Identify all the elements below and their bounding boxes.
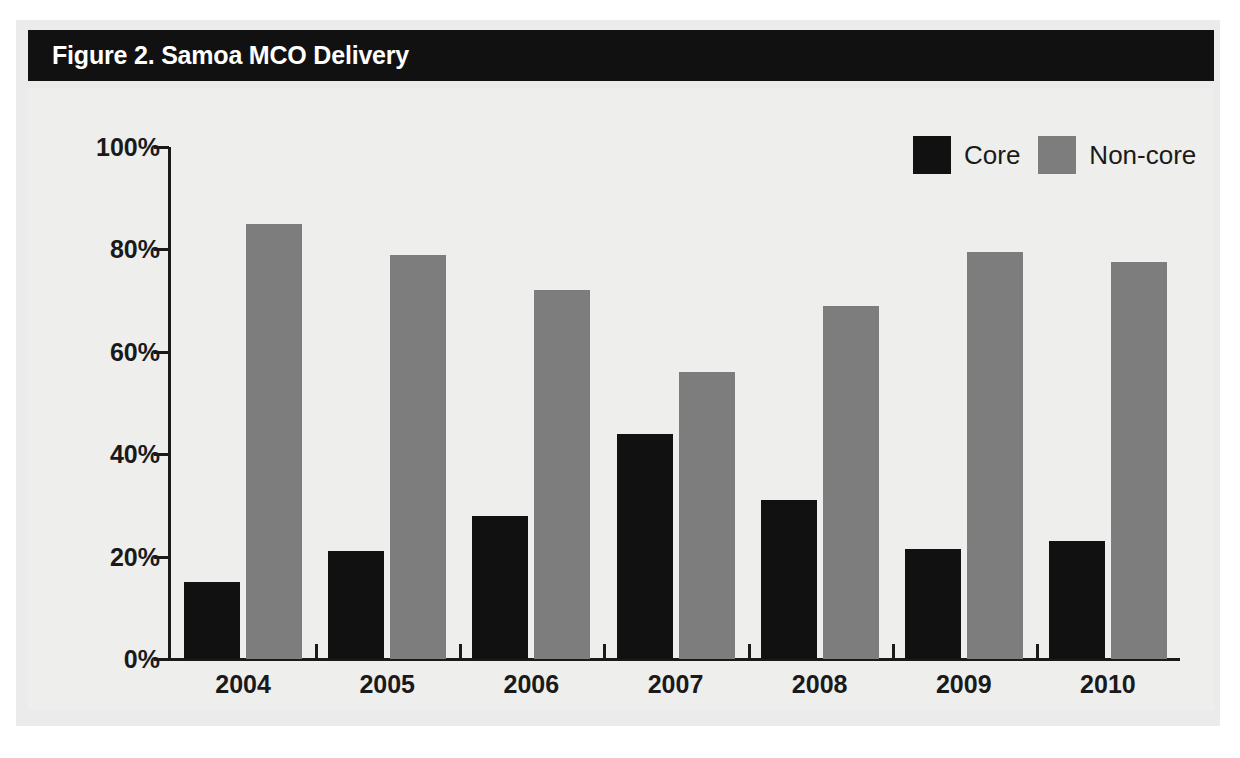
- legend-label-non-core: Non-core: [1089, 140, 1196, 171]
- bar-non-core-2006: [534, 290, 590, 659]
- bar-group-2010: [1049, 147, 1167, 659]
- x-axis-tick-mark: [1036, 644, 1039, 661]
- bar-core-2008: [761, 500, 817, 659]
- chart-card: 0%20%40%60%80%100% 200420052006200720082…: [28, 88, 1214, 710]
- bar-core-2010: [1049, 541, 1105, 659]
- bar-non-core-2007: [679, 372, 735, 659]
- bar-group-2006: [472, 147, 590, 659]
- x-axis-tick-mark: [748, 644, 751, 661]
- x-axis-tick-label: 2007: [648, 670, 704, 699]
- legend-label-core: Core: [964, 140, 1020, 171]
- x-axis-labels: 2004200520062007200820092010: [171, 666, 1180, 710]
- figure-title-bar: Figure 2. Samoa MCO Delivery: [28, 30, 1214, 81]
- bar-non-core-2008: [823, 306, 879, 659]
- chart-legend: Core Non-core: [913, 136, 1196, 174]
- bar-group-2005: [328, 147, 446, 659]
- y-axis-tick-mark: [154, 146, 169, 149]
- x-axis-tick-label: 2009: [936, 670, 992, 699]
- bar-non-core-2005: [390, 255, 446, 659]
- bar-group-2008: [761, 147, 879, 659]
- bars-area: [171, 147, 1180, 659]
- x-axis-tick-label: 2010: [1080, 670, 1136, 699]
- bar-core-2004: [184, 582, 240, 659]
- figure-root: Figure 2. Samoa MCO Delivery 0%20%40%60%…: [0, 0, 1240, 758]
- y-axis-tick-mark: [154, 658, 169, 661]
- bar-group-2004: [184, 147, 302, 659]
- y-axis-labels: 0%20%40%60%80%100%: [68, 88, 160, 710]
- legend-swatch-core-icon: [913, 136, 951, 174]
- y-axis-tick-mark: [154, 248, 169, 251]
- bar-group-2009: [905, 147, 1023, 659]
- x-axis-tick-mark: [459, 644, 462, 661]
- y-axis-tick-mark: [154, 453, 169, 456]
- y-axis-tick-label: 60%: [110, 337, 160, 366]
- legend-item-non-core: Non-core: [1038, 136, 1196, 174]
- bar-non-core-2010: [1111, 262, 1167, 659]
- x-axis-tick-label: 2004: [215, 670, 271, 699]
- bar-non-core-2009: [967, 252, 1023, 659]
- y-axis-tick-label: 20%: [110, 542, 160, 571]
- x-axis-tick-mark: [603, 644, 606, 661]
- bar-group-2007: [617, 147, 735, 659]
- plot-area: 0%20%40%60%80%100% 200420052006200720082…: [28, 88, 1214, 710]
- x-axis-tick-label: 2005: [359, 670, 415, 699]
- x-axis-tick-mark: [892, 644, 895, 661]
- y-axis-tick-label: 40%: [110, 440, 160, 469]
- bar-core-2009: [905, 549, 961, 659]
- figure-title: Figure 2. Samoa MCO Delivery: [28, 41, 409, 70]
- legend-swatch-non-core-icon: [1038, 136, 1076, 174]
- x-axis-tick-mark: [315, 644, 318, 661]
- legend-item-core: Core: [913, 136, 1020, 174]
- bar-non-core-2004: [246, 224, 302, 659]
- y-axis-tick-mark: [154, 556, 169, 559]
- y-axis-tick-mark: [154, 351, 169, 354]
- y-axis-tick-label: 100%: [96, 133, 160, 162]
- x-axis-tick-label: 2006: [504, 670, 560, 699]
- bar-core-2006: [472, 516, 528, 659]
- x-axis-tick-label: 2008: [792, 670, 848, 699]
- bar-core-2005: [328, 551, 384, 659]
- bar-core-2007: [617, 434, 673, 659]
- y-axis-tick-label: 80%: [110, 235, 160, 264]
